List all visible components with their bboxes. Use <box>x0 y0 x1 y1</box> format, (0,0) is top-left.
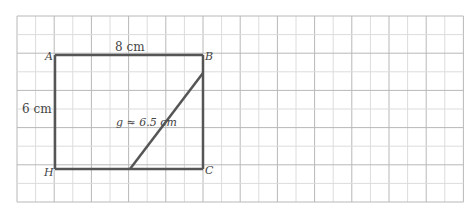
length-label-left: 6 cm <box>22 102 52 116</box>
length-label-g: g ≈ 6.5 cm <box>116 116 177 129</box>
geometry-figure: A B C H 8 cm 6 cm g ≈ 6.5 cm <box>0 0 474 216</box>
vertex-label-A: A <box>44 50 53 63</box>
grid <box>17 16 463 202</box>
length-label-top: 8 cm <box>115 40 145 54</box>
vertex-label-H: H <box>43 166 54 179</box>
vertex-label-C: C <box>205 164 214 177</box>
vertex-label-B: B <box>204 50 213 63</box>
